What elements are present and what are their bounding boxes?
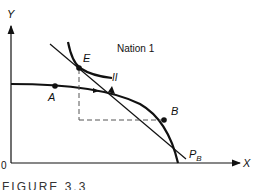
point-b-marker	[161, 117, 167, 123]
indifference-curve-label: II	[112, 72, 118, 83]
origin-label: 0	[1, 160, 7, 171]
point-e-marker	[76, 65, 82, 71]
figure-caption: FIGURE 3.3	[2, 180, 87, 190]
nation-label: Nation 1	[117, 43, 155, 54]
price-line-pb	[50, 44, 186, 159]
point-a-label: A	[47, 91, 55, 103]
point-b-label: B	[171, 105, 178, 117]
y-axis-label: Y	[7, 8, 15, 20]
price-line-label: PB	[189, 148, 202, 163]
point-a-marker	[52, 83, 58, 89]
production-possibility-frontier	[11, 84, 178, 163]
trade-diagram: Y X 0 A E B II PB Nation 1 FIGURE 3.3	[0, 0, 256, 190]
x-axis-label: X	[242, 157, 251, 169]
point-e-label: E	[83, 52, 91, 64]
